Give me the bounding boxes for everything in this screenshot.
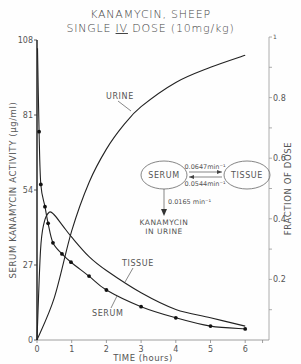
rate-serum-to-tissue: 0.0647min⁻¹ [184,163,225,171]
rate-elimination: 0.0165 min⁻¹ [168,198,211,206]
x-tick-label: 0 [34,345,39,354]
serum-data-point [105,288,109,292]
y-tick-label: 27 [23,261,33,270]
svg-text:TISSUE: TISSUE [230,171,263,180]
serum-data-point [174,316,178,320]
y-tick-label: 81 [23,111,33,120]
serum-data-point [209,324,213,328]
serum-data-point [69,260,73,264]
x-axis-label: TIME (hours) [112,353,173,363]
rate-tissue-to-serum: 0.0544min⁻¹ [184,180,225,188]
x-tick-label: 6 [243,345,248,354]
serum-data-point [39,183,43,187]
label-tissue: TISSUE [121,259,154,268]
svg-text:SERUM: SERUM [148,171,179,180]
x-tick-label: 1 [69,345,74,354]
series-urine-line [37,55,245,340]
compartment-diagram: SERUMTISSUE0.0647min⁻¹0.0544min⁻¹0.0165 … [140,161,270,236]
serum-data-point [139,305,143,309]
y-axis-label: SERUM KANAMYCIN ACTIVITY (µg/ml) [8,102,18,279]
y2-tick-label: 1 [273,33,277,40]
serum-data-point [60,252,64,256]
chart-canvas: 027548110801234560.20.40.60.81TIME (hour… [0,0,301,364]
serum-data-point [46,221,50,225]
label-urine: URINE [106,92,134,101]
y2-tick-label: 0.2 [273,275,286,284]
serum-data-point [87,274,91,278]
x-tick-label: 5 [208,345,213,354]
y-tick-label: 108 [18,36,33,45]
elimination-label: KANAMYCIN [140,218,189,227]
serum-data-point [243,327,247,331]
x-tick-label: 4 [173,345,178,354]
label-serum: SERUM [92,309,123,318]
serum-data-point [37,130,41,134]
y2-axis-label: FRACTION OF DOSE [283,142,293,235]
svg-text:IN URINE: IN URINE [145,227,182,236]
data-curves: URINETISSUESERUM [37,48,247,340]
serum-data-point [51,241,55,245]
serum-data-point [43,205,47,209]
y2-tick-label: 0.8 [273,94,286,103]
axes: 027548110801234560.20.40.60.81TIME (hour… [8,33,293,363]
series-serum-line [38,48,246,329]
y-tick-label: 54 [23,186,33,195]
y-tick-label: 0 [28,336,33,345]
x-tick-label: 2 [104,345,109,354]
series-tissue-line [37,212,245,340]
